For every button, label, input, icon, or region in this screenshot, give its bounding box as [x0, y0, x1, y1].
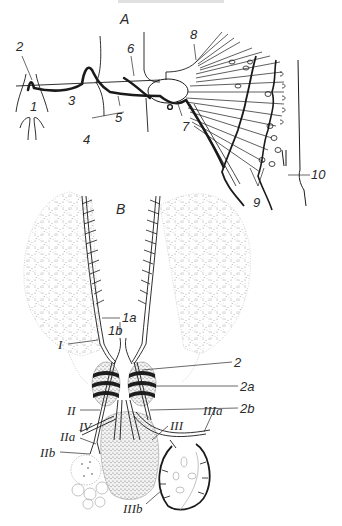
label-b-IIIb: IIIb: [123, 502, 143, 515]
label-b-1a: 1a: [122, 311, 136, 324]
label-b-II: II: [67, 404, 76, 417]
label-a-9: 9: [253, 196, 260, 209]
label-a-8: 8: [190, 28, 197, 41]
label-a-7: 7: [182, 120, 189, 133]
label-b-2b: 2b: [240, 402, 254, 415]
label-b-2a: 2a: [240, 380, 254, 393]
label-b-IIb: IIb: [40, 446, 55, 459]
anatomical-diagram: A B 1 2 3 4 5 6 7 8 9 10 1a 1b I 2 2a 2b…: [0, 0, 342, 526]
label-a-3: 3: [68, 94, 75, 107]
label-b-IIa: IIa: [60, 430, 75, 443]
label-a-5: 5: [115, 111, 122, 124]
panel-b-right-vesicle: [159, 444, 209, 510]
header-fragment: [118, 0, 224, 3]
label-a-6: 6: [127, 42, 134, 55]
label-b-1b: 1b: [108, 324, 122, 337]
label-b-2: 2: [234, 356, 241, 369]
panel-a-drawing: [16, 32, 306, 210]
label-b-I: I: [58, 338, 62, 351]
panel-b-label: B: [116, 202, 125, 216]
label-b-III: III: [170, 419, 183, 432]
label-a-2: 2: [16, 40, 23, 53]
label-b-IIIa: IIIa: [203, 404, 223, 417]
label-b-IV: IV: [79, 420, 91, 433]
panel-b-ovaries: [24, 192, 251, 384]
panel-a-label: A: [120, 12, 129, 26]
label-a-1: 1: [30, 100, 37, 113]
panel-a-leaders: [22, 44, 310, 186]
label-a-4: 4: [83, 133, 90, 146]
label-a-10: 10: [311, 168, 325, 181]
